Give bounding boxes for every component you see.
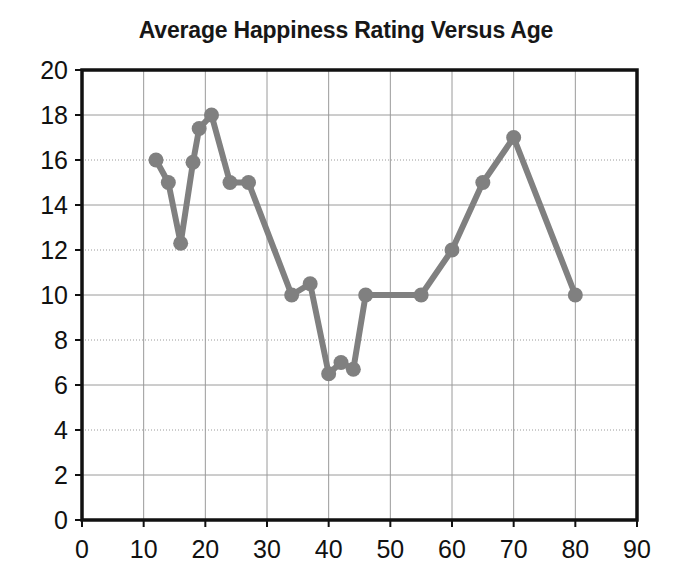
data-point-marker xyxy=(303,276,318,291)
y-axis-tick-label: 6 xyxy=(54,371,68,399)
x-axis-tick-label: 60 xyxy=(438,535,466,563)
data-point-marker xyxy=(284,288,299,303)
axis-tick-labels: 024681012141618200102030405060708090 xyxy=(40,56,651,563)
y-axis-tick-label: 14 xyxy=(40,191,68,219)
axis-ticks xyxy=(75,70,637,527)
y-axis-tick-label: 12 xyxy=(40,236,68,264)
x-axis-tick-label: 30 xyxy=(253,535,281,563)
y-axis-tick-label: 4 xyxy=(54,416,68,444)
data-point-marker xyxy=(223,175,238,190)
data-point-marker xyxy=(186,155,201,170)
x-axis-tick-label: 70 xyxy=(500,535,528,563)
x-axis-tick-label: 40 xyxy=(315,535,343,563)
data-point-marker xyxy=(161,175,176,190)
data-point-marker xyxy=(346,362,361,377)
data-point-marker xyxy=(568,288,583,303)
data-point-marker xyxy=(445,243,460,258)
y-axis-tick-label: 20 xyxy=(40,56,68,84)
data-point-marker xyxy=(506,130,521,145)
y-axis-tick-label: 0 xyxy=(54,506,68,534)
data-point-marker xyxy=(241,175,256,190)
y-axis-tick-label: 10 xyxy=(40,281,68,309)
y-axis-tick-label: 16 xyxy=(40,146,68,174)
data-point-marker xyxy=(149,153,164,168)
data-point-marker xyxy=(358,288,373,303)
y-axis-tick-label: 2 xyxy=(54,461,68,489)
chart-figure: Average Happiness Rating Versus Age 0246… xyxy=(0,0,692,583)
data-point-marker xyxy=(321,366,336,381)
data-point-marker xyxy=(414,288,429,303)
data-point-marker xyxy=(192,121,207,136)
y-axis-tick-label: 18 xyxy=(40,101,68,129)
series-line xyxy=(156,115,575,374)
line-chart-plot: 024681012141618200102030405060708090 xyxy=(0,0,692,583)
data-point-marker xyxy=(475,175,490,190)
x-axis-tick-label: 50 xyxy=(376,535,404,563)
data-point-marker xyxy=(173,236,188,251)
x-axis-tick-label: 20 xyxy=(191,535,219,563)
y-axis-tick-label: 8 xyxy=(54,326,68,354)
x-axis-tick-label: 10 xyxy=(130,535,158,563)
data-point-marker xyxy=(204,108,219,123)
x-axis-tick-label: 0 xyxy=(75,535,89,563)
x-axis-tick-label: 80 xyxy=(561,535,589,563)
x-axis-tick-label: 90 xyxy=(623,535,651,563)
